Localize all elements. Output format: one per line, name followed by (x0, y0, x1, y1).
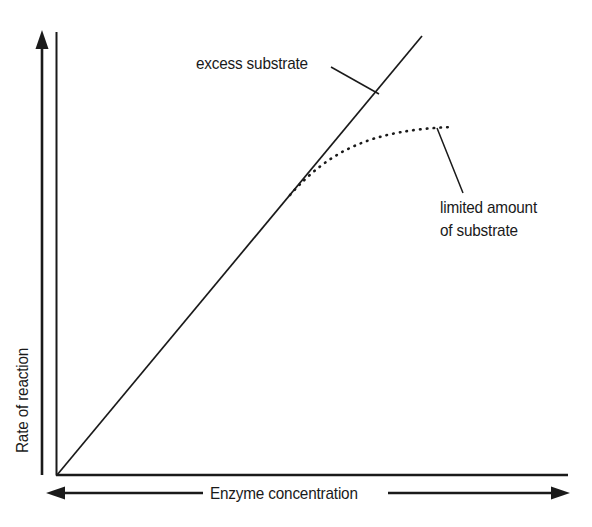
enzyme-rate-chart-figure: excess substrate limited amountof substr… (0, 0, 592, 527)
annotation-excess-substrate: excess substrate (196, 52, 308, 75)
y-axis-label: Rate of reaction (13, 348, 33, 453)
series-limited-substrate-curve (290, 127, 452, 195)
annotation-limited-substrate-line-2: of substrate (440, 221, 518, 240)
series-excess-substrate-line (57, 36, 422, 475)
annotation-limited-substrate: limited amountof substrate (440, 196, 537, 242)
x-axis-label: Enzyme concentration (210, 482, 358, 505)
leader-line-limited-substrate (437, 128, 463, 193)
y-axis-label-container: Rate of reaction (13, 233, 39, 453)
chart-plot-area (0, 0, 592, 527)
leader-line-excess-substrate (331, 67, 379, 94)
annotation-limited-substrate-line-1: limited amount (440, 198, 537, 217)
